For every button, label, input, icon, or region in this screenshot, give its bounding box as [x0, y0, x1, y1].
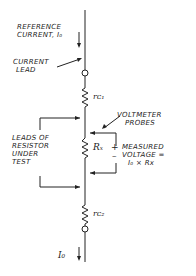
rc1-label: rᴄ₁ [93, 92, 105, 101]
measured-line-1: MEASURED [122, 143, 165, 151]
upper-resistor-lead [40, 118, 80, 130]
i0-bottom-label: I₀ [58, 250, 65, 260]
rc2-label: rᴄ₂ [93, 209, 105, 218]
reference-current-label: REFERENCE CURRENT, I₀ [17, 23, 62, 39]
rx-resistor [82, 138, 88, 158]
voltmeter-probes-label: VOLTMETER PROBES [117, 111, 162, 127]
leads-line-2: RESISTOR [12, 142, 49, 150]
minus-sign: – [112, 151, 117, 161]
measured-line-2: VOLTAGE = [122, 151, 165, 159]
bottom-terminal [82, 226, 88, 232]
leads-of-resistor-label: LEADS OF RESISTOR UNDER TEST [12, 134, 49, 166]
lower-resistor-lead [40, 176, 80, 187]
four-wire-resistance-diagram: REFERENCE CURRENT, I₀ CURRENT LEAD VOLTM… [0, 0, 196, 276]
reference-current-line-1: REFERENCE [17, 23, 62, 31]
top-terminal [82, 70, 88, 76]
current-lead-line-1: CURRENT [13, 58, 49, 66]
reference-current-line-2: CURRENT, I₀ [17, 31, 62, 39]
measured-voltage-label: MEASURED VOLTAGE = I₀ × Rx [122, 143, 165, 167]
rx-label: Rₓ [93, 142, 103, 152]
voltmeter-probes-line-2: PROBES [117, 119, 162, 127]
current-lead-line-2: LEAD [13, 66, 49, 74]
rc2-resistor [82, 205, 88, 224]
measured-line-3: I₀ × Rx [122, 159, 165, 167]
rc1-resistor [82, 88, 88, 107]
current-lead-pointer [57, 59, 80, 67]
leads-line-4: TEST [12, 158, 49, 166]
leads-line-1: LEADS OF [12, 134, 49, 142]
leads-line-3: UNDER [12, 150, 49, 158]
voltmeter-probes-line-1: VOLTMETER [117, 111, 162, 119]
current-lead-label: CURRENT LEAD [13, 58, 49, 74]
